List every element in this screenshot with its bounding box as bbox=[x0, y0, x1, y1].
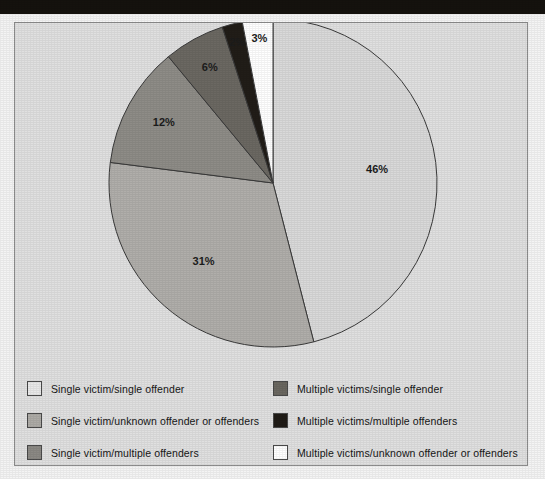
page-top-black-band bbox=[0, 0, 545, 14]
pie-slice-label-multiple-victims-multiple-offenders: 2% bbox=[229, 36, 245, 48]
pie-slices-group bbox=[109, 23, 437, 347]
legend-swatch-icon bbox=[273, 445, 288, 460]
pie-slice-label-multiple-victims-single-offender: 6% bbox=[202, 61, 218, 73]
chart-legend: Single victim/single offender Single vic… bbox=[15, 371, 529, 465]
pie-slice-label-single-victim-single-offender: 46% bbox=[366, 163, 388, 175]
legend-item-label: Single victim/unknown offender or offend… bbox=[51, 415, 259, 427]
legend-column-right: Multiple victims/single offender Multipl… bbox=[273, 377, 517, 465]
legend-item-multiple-victims-multiple-offenders[interactable]: Multiple victims/multiple offenders bbox=[273, 413, 517, 428]
legend-item-label: Single victim/single offender bbox=[51, 383, 184, 395]
legend-swatch-icon bbox=[273, 413, 288, 428]
pie-slice-label-multiple-victims-unknown-offenders: 3% bbox=[251, 32, 267, 44]
pie-slice-label-single-victim-multiple-offenders: 12% bbox=[153, 116, 175, 128]
pie-chart-area: 46%31%12%6%2%3% bbox=[15, 23, 529, 373]
legend-item-multiple-victims-single-offender[interactable]: Multiple victims/single offender bbox=[273, 381, 517, 396]
legend-item-single-victim-single-offender[interactable]: Single victim/single offender bbox=[27, 381, 273, 396]
legend-item-multiple-victims-unknown-offenders[interactable]: Multiple victims/unknown offender or off… bbox=[273, 445, 517, 460]
legend-swatch-icon bbox=[27, 413, 42, 428]
legend-swatch-icon bbox=[27, 445, 42, 460]
legend-item-single-victim-multiple-offenders[interactable]: Single victim/multiple offenders bbox=[27, 445, 273, 460]
scanned-page-sheet: 46%31%12%6%2%3% Single victim/single off… bbox=[0, 14, 545, 479]
legend-swatch-icon bbox=[273, 381, 288, 396]
legend-item-label: Single victim/multiple offenders bbox=[51, 447, 199, 459]
legend-item-label: Multiple victims/single offender bbox=[297, 383, 443, 395]
pie-slice-label-single-victim-unknown-offenders: 31% bbox=[193, 255, 215, 267]
legend-item-single-victim-unknown-offenders[interactable]: Single victim/unknown offender or offend… bbox=[27, 413, 273, 428]
legend-item-label: Multiple victims/multiple offenders bbox=[297, 415, 457, 427]
legend-swatch-icon bbox=[27, 381, 42, 396]
pie-chart-svg: 46%31%12%6%2%3% bbox=[15, 23, 529, 373]
legend-column-left: Single victim/single offender Single vic… bbox=[27, 377, 273, 465]
chart-frame: 46%31%12%6%2%3% Single victim/single off… bbox=[14, 22, 528, 466]
legend-item-label: Multiple victims/unknown offender or off… bbox=[297, 447, 518, 459]
